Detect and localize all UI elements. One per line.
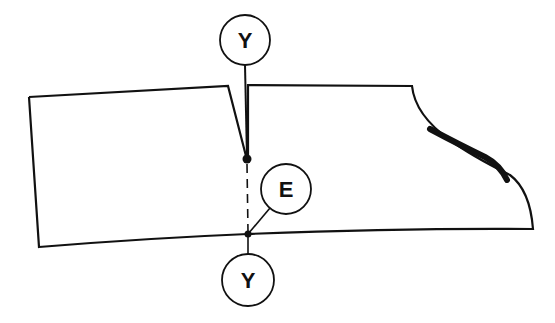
callout-middle-label: E xyxy=(279,177,294,202)
callout-top-label: Y xyxy=(238,28,253,53)
callout-top-y: Y xyxy=(220,15,270,65)
left-panel-outline xyxy=(29,86,248,247)
e-callout-leader xyxy=(248,208,270,234)
dashed-guide-line xyxy=(247,164,248,232)
callout-bottom-label: Y xyxy=(241,268,256,293)
highlighted-seam-segment xyxy=(430,129,507,180)
pattern-diagram: Y E Y xyxy=(0,0,555,323)
top-callout-leader xyxy=(245,65,247,158)
callout-e: E xyxy=(261,164,311,214)
dart-point-dot xyxy=(243,155,252,164)
callout-bottom-y: Y xyxy=(222,254,274,306)
